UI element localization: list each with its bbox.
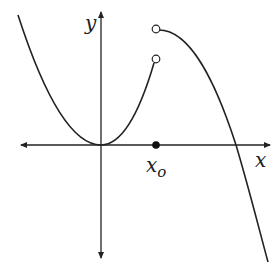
xo-label: xo xyxy=(146,153,166,181)
xo-label-sub: o xyxy=(157,163,166,181)
function-graph: y x xo xyxy=(0,0,280,270)
open-circle-lower xyxy=(152,55,160,63)
y-axis-label: y xyxy=(84,11,97,35)
descending-curve xyxy=(159,30,268,262)
open-circle-upper xyxy=(152,25,160,33)
filled-point-xo xyxy=(152,141,160,149)
xo-label-main: x xyxy=(146,153,157,177)
x-axis-label: x xyxy=(255,148,266,172)
